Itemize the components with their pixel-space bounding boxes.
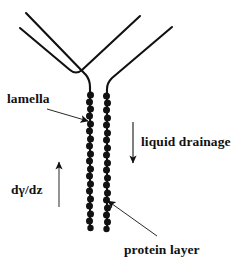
- protein-bead: [103, 107, 110, 114]
- protein-bead: [104, 100, 111, 107]
- protein-bead: [104, 115, 111, 122]
- protein-bead: [103, 226, 109, 232]
- protein-bead: [86, 188, 93, 195]
- protein-bead: [104, 205, 111, 212]
- protein-bead: [103, 137, 110, 144]
- protein-bead: [86, 203, 93, 210]
- protein-bead: [104, 190, 111, 197]
- protein-bead: [86, 113, 93, 120]
- protein-bead: [86, 218, 93, 225]
- protein-bead: [103, 122, 110, 129]
- protein-bead: [87, 136, 94, 143]
- protein-bead: [103, 182, 110, 189]
- protein-chain-right: [103, 93, 111, 233]
- protein-bead: [86, 143, 93, 150]
- protein-bead: [104, 160, 111, 167]
- plateau-border-outline: [20, 13, 172, 93]
- protein-bead: [87, 181, 94, 188]
- protein-bead: [103, 212, 110, 219]
- protein-bead: [86, 158, 93, 165]
- protein-bead: [104, 219, 111, 226]
- protein-bead: [87, 106, 94, 113]
- protein-bead: [87, 196, 94, 203]
- protein-bead: [104, 175, 111, 182]
- schematic-drawing: [0, 0, 241, 263]
- plateau-left-outer-wall: [26, 13, 90, 92]
- protein-bead: [103, 152, 110, 159]
- protein-bead: [86, 99, 93, 106]
- protein-bead: [87, 225, 93, 231]
- protein-bead: [104, 145, 111, 152]
- lamella-label: lamella: [7, 92, 50, 106]
- protein-bead: [104, 130, 111, 137]
- liquid-drainage-label: liquid drainage: [141, 135, 231, 149]
- surface-tension-gradient-label: dγ/dz: [11, 183, 43, 197]
- protein-bead: [86, 173, 93, 180]
- protein-layer-leader-arrow: [108, 201, 157, 236]
- protein-bead: [103, 167, 110, 174]
- protein-bead: [87, 211, 94, 218]
- protein-bead: [103, 93, 110, 100]
- protein-bead: [87, 151, 94, 158]
- protein-bead: [86, 128, 93, 135]
- lamella-leader-arrow: [47, 109, 88, 121]
- protein-bead: [87, 166, 94, 173]
- protein-bead: [87, 92, 94, 99]
- protein-bead: [103, 197, 110, 204]
- figure-canvas: lamella liquid drainage protein layer dγ…: [0, 0, 241, 263]
- protein-layer-label: protein layer: [124, 243, 200, 257]
- protein-bead: [87, 121, 94, 128]
